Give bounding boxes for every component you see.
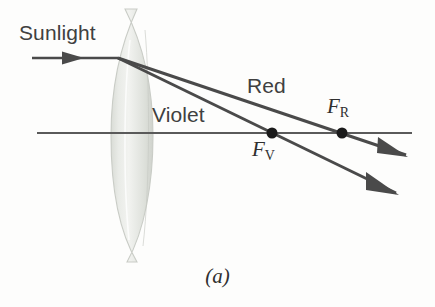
violet-focal-point-label: FV [252,139,275,160]
figure-caption-text: (a) [205,266,230,287]
violet-focal-point-dot [267,128,278,139]
chromatic-aberration-figure: Sunlight Red Violet FR FV (a) [0,0,435,307]
converging-lens [111,9,153,262]
red-focal-point-label: FR [327,96,349,117]
incoming-sunlight-ray [32,52,118,65]
figure-caption: (a) [0,266,435,287]
focal-red-f: F [327,94,340,118]
red-ray-label: Red [247,75,286,96]
focal-violet-f: F [252,137,265,161]
violet-ray-arrowhead [366,172,399,195]
focal-red-subscript: R [340,105,349,120]
violet-ray-label: Violet [152,104,205,125]
red-ray-arrowhead [377,137,408,157]
red-focal-point-dot [337,128,348,139]
sunlight-ray-arrowhead [62,52,84,65]
focal-violet-subscript: V [265,148,275,163]
figure-canvas [0,0,435,307]
sunlight-label: Sunlight [19,22,96,43]
